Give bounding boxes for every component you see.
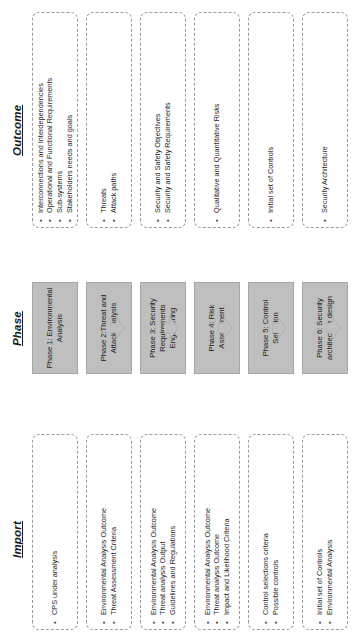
bullet-dot-icon: •	[212, 213, 222, 222]
bullet-item: •Control selections criteria	[261, 442, 271, 624]
process-flow-diagram: Import Phase Outcome •CPS under analysis…	[0, 0, 359, 642]
bullet-item: •CPS under analysis	[50, 442, 60, 624]
bullet-item: •Environmental Analysis	[325, 442, 335, 624]
bullet-dot-icon: •	[99, 213, 109, 222]
phase-row: •Environmental Analysis Outcome•Threat a…	[140, 0, 186, 642]
bullet-item-label: Stakeholders needs and goals	[65, 20, 75, 213]
bullet-item: •Environmental Analysis Outcome	[99, 442, 109, 624]
bullet-item: •Threat Assessment Criteria	[109, 442, 119, 624]
phase-box-3[interactable]: Phase 3: Security Requirements Engineeri…	[140, 282, 186, 374]
phase-box-2[interactable]: Phase 2:Threat and Attack analysis	[86, 282, 132, 374]
bullet-dot-icon: •	[45, 213, 55, 222]
import-box-phase-1: •CPS under analysis	[32, 434, 78, 630]
bullet-dot-icon: •	[325, 615, 335, 624]
phase-row: •CPS under analysis Phase 1: Environment…	[32, 0, 78, 642]
bullet-item-label: Qualitative and Quantitative Risks	[212, 20, 222, 213]
bullet-item: •Environmental Analysis Outcome	[203, 442, 213, 624]
bullet-item: •Threat analysis Outcome	[212, 442, 222, 624]
flow-arrow-icon	[272, 317, 286, 339]
bullet-item-label: Interconnections and Interdependencies	[36, 20, 46, 213]
import-box-phase-4: •Environmental Analysis Outcome•Threat a…	[194, 434, 240, 630]
bullet-item: •Impact and Likelihood Criteria	[222, 442, 232, 624]
bullet-dot-icon: •	[109, 213, 119, 222]
bullet-item: •Operational and Functional Requirements	[45, 20, 55, 222]
import-box-phase-6: •Initial set of Controls•Environmental A…	[302, 434, 348, 630]
outcome-box-phase-1: •Interconnections and Interdependencies•…	[32, 12, 78, 228]
bullet-dot-icon: •	[36, 213, 46, 222]
bullet-item: •Guidelines and Regulations	[168, 442, 178, 624]
bullet-item: •Qualitative and Quantitative Risks	[212, 20, 222, 222]
bullet-item-label: Threats	[99, 20, 109, 213]
bullet-item-label: CPS under analysis	[50, 442, 60, 615]
bullet-dot-icon: •	[222, 615, 232, 624]
bullet-item: •Interconnections and Interdependencies	[36, 20, 46, 222]
bullet-item-label: Environmental Analysis	[325, 442, 335, 615]
flow-arrow-icon	[110, 317, 124, 339]
bullet-item-label: Environmental Analysis Outcome	[203, 442, 213, 615]
bullet-item-label: Sub-systems	[55, 20, 65, 213]
bullet-item: •Initial set of Controls	[315, 442, 325, 624]
column-header-import: Import	[11, 521, 23, 558]
bullet-item: •Sub-systems	[55, 20, 65, 222]
phase-box-6[interactable]: Phase 6: Security architecture design	[302, 282, 348, 374]
bullet-dot-icon: •	[149, 615, 159, 624]
bullet-dot-icon: •	[65, 213, 75, 222]
flow-arrow-icon	[326, 317, 340, 339]
import-box-phase-5: •Control selections criteria•Possible co…	[248, 434, 294, 630]
bullet-dot-icon: •	[109, 615, 119, 624]
column-header-outcome: Outcome	[11, 105, 23, 156]
bullet-item-label: Control selections criteria	[261, 442, 271, 615]
bullet-dot-icon: •	[203, 615, 213, 624]
bullet-dot-icon: •	[99, 615, 109, 624]
bullet-dot-icon: •	[55, 213, 65, 222]
bullet-item-label: Initial set of Controls	[315, 442, 325, 615]
bullet-item: •Threats	[99, 20, 109, 222]
bullet-dot-icon: •	[266, 213, 276, 222]
phase-box-1[interactable]: Phase 1: Environmental Analysis	[32, 282, 78, 374]
outcome-box-phase-5: •Initial set of Controls	[248, 12, 294, 228]
flow-arrow-icon	[164, 317, 178, 339]
outcome-box-phase-3: •Security and Safety Objectives•Security…	[140, 12, 186, 228]
bullet-item-label: Threat Assessment Criteria	[109, 442, 119, 615]
bullet-dot-icon: •	[158, 615, 168, 624]
outcome-box-phase-2: •Threats•Attack paths	[86, 12, 132, 228]
outcome-box-phase-4: •Qualitative and Quantitative Risks	[194, 12, 240, 228]
phase-box-5[interactable]: Phase 5: Control Selection	[248, 282, 294, 374]
bullet-item-label: Possible controls	[271, 442, 281, 615]
flow-arrow-icon	[218, 317, 232, 339]
phase-box-4[interactable]: Phase 4: Risk Assessment	[194, 282, 240, 374]
import-box-phase-2: •Environmental Analysis Outcome•Threat A…	[86, 434, 132, 630]
bullet-dot-icon: •	[168, 615, 178, 624]
bullet-item: •Stakeholders needs and goals	[65, 20, 75, 222]
bullet-dot-icon: •	[50, 615, 60, 624]
bullet-item: •Security and Safety Requirements	[163, 20, 173, 222]
bullet-item-label: Guidelines and Regulations	[168, 442, 178, 615]
phase-row: •Environmental Analysis Outcome•Threat a…	[194, 0, 240, 642]
bullet-item: •Attack paths	[109, 20, 119, 222]
column-header-row: Import Phase Outcome	[0, 0, 34, 642]
bullet-item-label: Security and Safety Objectives	[153, 20, 163, 213]
import-box-phase-3: •Environmental Analysis Outcome•Threat a…	[140, 434, 186, 630]
bullet-item-label: Security and Safety Requirements	[163, 20, 173, 213]
bullet-dot-icon: •	[212, 615, 222, 624]
bullet-item: •Threat analysis Output	[158, 442, 168, 624]
bullet-dot-icon: •	[315, 615, 325, 624]
bullet-item-label: Security Architecture	[320, 20, 330, 213]
rotated-figure-canvas: Import Phase Outcome •CPS under analysis…	[0, 0, 359, 642]
bullet-dot-icon: •	[261, 615, 271, 624]
bullet-item: •Security and Safety Objectives	[153, 20, 163, 222]
bullet-dot-icon: •	[271, 615, 281, 624]
bullet-item: •Security Architecture	[320, 20, 330, 222]
bullet-item: •Initial set of Controls	[266, 20, 276, 222]
bullet-item: •Environmental Analysis Outcome	[149, 442, 159, 624]
bullet-dot-icon: •	[320, 213, 330, 222]
column-header-phase: Phase	[11, 311, 23, 346]
bullet-dot-icon: •	[153, 213, 163, 222]
outcome-box-phase-6: •Security Architecture	[302, 12, 348, 228]
bullet-item-label: Environmental Analysis Outcome	[149, 442, 159, 615]
bullet-item-label: Threat analysis Outcome	[212, 442, 222, 615]
bullet-item-label: Impact and Likelihood Criteria	[222, 442, 232, 615]
bullet-item-label: Operational and Functional Requirements	[45, 20, 55, 213]
bullet-item: •Possible controls	[271, 442, 281, 624]
bullet-item-label: Attack paths	[109, 20, 119, 213]
